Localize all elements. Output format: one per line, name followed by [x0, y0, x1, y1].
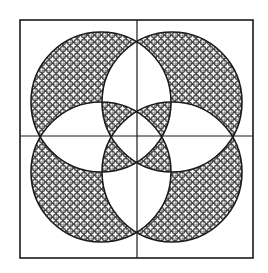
geometric-circle-figure: [0, 0, 268, 273]
